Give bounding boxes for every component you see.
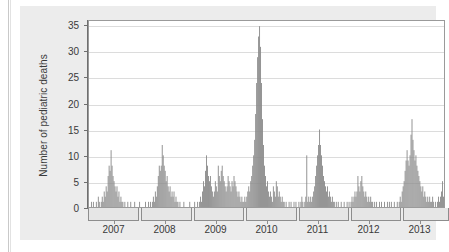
x-tick-label: 2008 <box>153 224 175 235</box>
season-bracket <box>351 208 401 221</box>
y-tick-label: 15 <box>55 124 79 135</box>
page-edge-rule <box>8 0 9 252</box>
chart-panel: Number of pediatric deaths 0510152025303… <box>20 6 436 240</box>
y-tick-label: 20 <box>55 98 79 109</box>
page-edge-rule-2 <box>10 0 11 252</box>
x-axis: 2007200820092010201120122013 <box>88 222 445 238</box>
plot-area <box>88 20 445 208</box>
x-tick-label: 2011 <box>307 224 329 235</box>
y-axis-title: Number of pediatric deaths <box>38 31 49 201</box>
x-tick-label: 2007 <box>102 224 124 235</box>
y-tick-label: 0 <box>55 203 79 214</box>
y-tick-label: 30 <box>55 46 79 57</box>
season-bracket <box>246 208 296 221</box>
bar-series <box>89 21 444 207</box>
y-axis-spine <box>87 20 88 208</box>
season-bracket <box>403 208 448 221</box>
y-tick-label: 25 <box>55 72 79 83</box>
x-tick-label: 2012 <box>357 224 379 235</box>
season-bracket <box>194 208 244 221</box>
x-tick-label: 2009 <box>204 224 226 235</box>
season-bracket <box>299 208 349 221</box>
x-tick-label: 2013 <box>408 224 430 235</box>
y-tick-label: 10 <box>55 150 79 161</box>
y-tick-label: 35 <box>55 20 79 31</box>
x-tick-label: 2010 <box>255 224 277 235</box>
y-tick-label: 5 <box>55 176 79 187</box>
season-bracket <box>141 208 191 221</box>
